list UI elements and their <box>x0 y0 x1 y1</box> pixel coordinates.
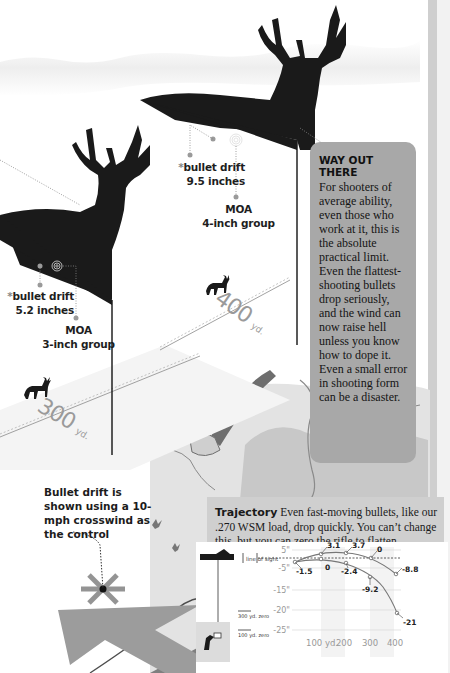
line-of-sight-label: line of sight <box>246 556 279 563</box>
svg-text:-8.8: -8.8 <box>402 565 418 574</box>
x-axis-ticks: 100 yd. 200 300 400 <box>306 638 403 648</box>
svg-text:-25": -25" <box>273 626 290 635</box>
svg-text:5": 5" <box>281 546 290 555</box>
far-drift-label: *bullet drift 9.5 inches <box>145 160 245 188</box>
svg-text:3.7: 3.7 <box>352 542 365 550</box>
near-drift-label: *bullet drift 5.2 inches <box>4 289 74 317</box>
svg-text:-20": -20" <box>273 606 290 615</box>
svg-text:400: 400 <box>387 638 403 648</box>
svg-text:-1.5: -1.5 <box>296 567 312 576</box>
svg-text:100 yd.: 100 yd. <box>306 638 338 648</box>
svg-text:-9.2: -9.2 <box>362 585 378 594</box>
far-moa-label: MOA 4-inch group <box>196 202 281 230</box>
way-out-there-callout: WAY OUT THERE For shooters of average ab… <box>310 142 416 463</box>
rifle-scope-icon <box>200 549 234 560</box>
svg-text:100 yd. zero: 100 yd. zero <box>238 632 269 639</box>
svg-text:-15": -15" <box>273 586 290 595</box>
svg-text:300 yd. zero: 300 yd. zero <box>238 613 269 620</box>
callout-title: WAY OUT THERE <box>319 154 408 178</box>
callout-body: For shooters of average ability, even th… <box>319 180 408 404</box>
trajectory-caption: Trajectory Even fast-moving bullets, lik… <box>207 497 444 542</box>
near-moa-label: MOA 3-inch group <box>36 323 121 351</box>
svg-text:0: 0 <box>377 545 382 554</box>
near-drift-dot <box>38 264 43 269</box>
svg-text:-2.4: -2.4 <box>341 567 357 576</box>
trajectory-chart: line of sight 5" -5" -15" -20" -25" 100 … <box>196 542 448 673</box>
chart-legend: 300 yd. zero 100 yd. zero <box>238 611 269 639</box>
svg-text:300: 300 <box>362 638 378 648</box>
trajectory-chart-svg: line of sight 5" -5" -15" -20" -25" 100 … <box>196 542 448 673</box>
infographic-stage: *bullet drift 9.5 inches MOA 4-inch grou… <box>0 0 450 673</box>
svg-text:200: 200 <box>336 638 352 648</box>
svg-text:-5": -5" <box>278 564 290 573</box>
trajectory-heading: Trajectory <box>215 506 277 519</box>
svg-text:0: 0 <box>325 563 330 572</box>
svg-text:3.1: 3.1 <box>327 542 340 550</box>
svg-text:-21: -21 <box>403 618 417 627</box>
bullet-drift-note: Bullet drift is shown using a 10-mph cro… <box>44 485 154 541</box>
